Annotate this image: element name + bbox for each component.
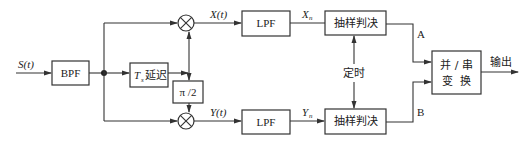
- svg-text:π /2: π /2: [180, 86, 197, 98]
- svg-text:变 换: 变 换: [442, 74, 471, 88]
- y-signal-label: Y(t): [210, 106, 227, 119]
- bpf-label: BPF: [61, 67, 81, 79]
- branch-a-label: A: [417, 28, 425, 40]
- xn-sub: n: [309, 14, 313, 22]
- delay-block: T s 延迟: [130, 63, 168, 87]
- branch-b-label: B: [417, 106, 424, 118]
- timing-label: 定时: [343, 66, 365, 80]
- svg-text:抽样判决: 抽样判决: [334, 114, 378, 128]
- svg-text:并 / 串: 并 / 串: [440, 58, 473, 72]
- svg-text:LPF: LPF: [257, 17, 276, 29]
- sampler-top-block: 抽样判决: [325, 11, 386, 35]
- phase-shift-block: π /2: [173, 81, 203, 103]
- input-label: S(t): [18, 58, 34, 71]
- top-multiplier: [178, 15, 194, 31]
- svg-text:LPF: LPF: [257, 116, 276, 128]
- qpsk-demodulator-diagram: S(t) BPF T s 延迟 π /2 X(t) Y(t): [0, 0, 531, 145]
- svg-text:抽样判决: 抽样判决: [334, 16, 378, 30]
- svg-text:s: s: [141, 76, 144, 84]
- sampler-bottom-block: 抽样判决: [325, 109, 386, 134]
- bpf-block: BPF: [52, 61, 89, 85]
- yn-sub: n: [309, 112, 313, 120]
- bottom-multiplier: [178, 113, 194, 129]
- lpf-bottom-block: LPF: [242, 110, 290, 134]
- x-signal-label: X(t): [209, 8, 227, 21]
- svg-text:T: T: [134, 69, 141, 81]
- svg-text:延迟: 延迟: [145, 69, 167, 82]
- lpf-top-block: LPF: [242, 11, 290, 36]
- parallel-serial-converter-block: 并 / 串 变 换: [432, 51, 481, 94]
- output-label: 输出: [490, 55, 512, 69]
